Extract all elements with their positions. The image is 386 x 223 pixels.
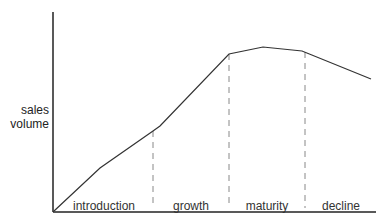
stage-label-growth: growth xyxy=(173,199,209,213)
stage-label-decline: decline xyxy=(322,199,360,213)
stage-dividers xyxy=(153,52,305,208)
life-cycle-diagram xyxy=(0,0,386,223)
stage-label-maturity: maturity xyxy=(246,199,289,213)
y-axis-label-line2: volume xyxy=(0,117,49,131)
sales-curve xyxy=(54,47,371,211)
stage-label-introduction: introduction xyxy=(73,199,135,213)
y-axis-label-line1: sales xyxy=(0,103,49,117)
